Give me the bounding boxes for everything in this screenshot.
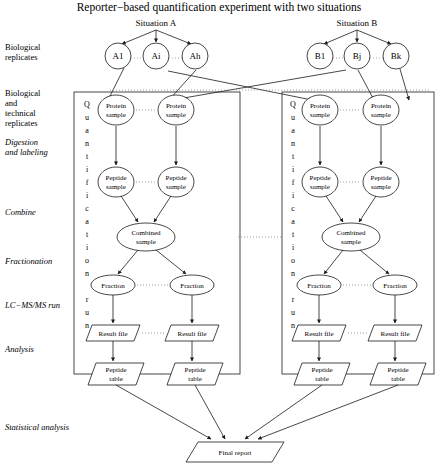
replicate-node-bk[interactable]: Bk xyxy=(383,43,409,69)
node-text-line: Peptide xyxy=(106,366,127,374)
arrow-combined-to-fraction-b1 xyxy=(324,250,343,274)
node-text-line: sample xyxy=(310,183,330,191)
node-text-line: Peptide xyxy=(371,174,392,182)
node-text-line: sample xyxy=(166,111,186,119)
vert-letter: a xyxy=(291,217,295,226)
replicate-node-a1[interactable]: A1 xyxy=(105,43,131,69)
situation-b-fanout xyxy=(324,30,391,44)
node-text-line: Fraction xyxy=(101,282,125,290)
vert-letter: n xyxy=(291,269,295,278)
vert-letter: r xyxy=(86,295,89,304)
stage-label-line: Biological xyxy=(5,42,41,52)
replicate-label: Ah xyxy=(190,51,201,61)
node-text-line: sample xyxy=(106,111,126,119)
arrow-table-a1-to-final xyxy=(116,385,211,439)
workflow-diagram: Reporter−based quantification experiment… xyxy=(0,0,439,466)
arrow-bk-to-protein-sample xyxy=(400,69,409,100)
vert-letter: t xyxy=(86,230,89,239)
result-file-node-a1[interactable]: Result file xyxy=(86,325,140,341)
result-file-node-b1[interactable]: Result file xyxy=(292,325,346,341)
peptide-table-node-b2[interactable]: Peptide table xyxy=(370,363,426,385)
result-file-node-a2[interactable]: Result file xyxy=(165,325,219,341)
node-text-line: Peptide xyxy=(166,174,187,182)
stage-label-biological-replicates: Biological replicates xyxy=(5,42,41,62)
node-text-line: Combined xyxy=(131,229,161,237)
stage-label-digestion-and-labeling: Digestion and labeling xyxy=(4,137,48,157)
stage-label-line: replicates xyxy=(5,52,38,62)
node-text-line: Result file xyxy=(381,330,410,338)
vert-letter: o xyxy=(85,256,89,265)
node-text-line: Fraction xyxy=(307,282,331,290)
peptide-table-node-a1[interactable]: Peptide table xyxy=(88,363,144,385)
replicate-label: B1 xyxy=(315,51,326,61)
protein-sample-node-a2[interactable]: Protein sample xyxy=(158,95,194,125)
situation-a-heading: Situation A xyxy=(136,18,177,28)
vert-letter: n xyxy=(85,321,89,330)
node-text-line: sample xyxy=(106,183,126,191)
node-text-line: Peptide xyxy=(388,366,409,374)
combined-sample-node-b[interactable]: Combined sample xyxy=(322,223,380,251)
arrow-combined-to-fraction-b2 xyxy=(360,250,389,274)
peptide-table-node-b1[interactable]: Peptide table xyxy=(294,363,350,385)
combined-sample-node-a[interactable]: Combined sample xyxy=(117,223,175,251)
vert-letter: i xyxy=(86,191,89,200)
vert-letter: u xyxy=(291,308,295,317)
vert-letter: o xyxy=(291,256,295,265)
arrow-combined-to-fraction-a1 xyxy=(118,250,138,274)
node-text-line: Result file xyxy=(178,330,207,338)
vert-letter: n xyxy=(291,139,295,148)
stage-label-biological-and-technical-replicates: Biological and technical replicates xyxy=(5,88,41,128)
node-text-line: sample xyxy=(136,238,156,246)
peptide-table-node-a2[interactable]: Peptide table xyxy=(167,363,223,385)
vert-letter: a xyxy=(291,126,295,135)
arrow-peptide-to-combined-b1 xyxy=(326,196,343,222)
stage-label-line: and xyxy=(5,98,18,108)
fraction-node-a2[interactable]: Fraction xyxy=(170,275,214,295)
replicate-label: Bk xyxy=(391,51,402,61)
protein-sample-node-b1[interactable]: Protein sample xyxy=(302,95,338,125)
vert-letter: f xyxy=(86,178,89,187)
node-text-line: sample xyxy=(341,238,361,246)
situation-a-fanout xyxy=(122,30,191,44)
protein-sample-node-b2[interactable]: Protein sample xyxy=(363,95,399,125)
fraction-node-a1[interactable]: Fraction xyxy=(91,275,135,295)
final-report-node[interactable]: Final report xyxy=(186,442,284,462)
vert-letter: t xyxy=(292,230,295,239)
result-file-node-b2[interactable]: Result file xyxy=(368,325,422,341)
replicate-node-b1[interactable]: B1 xyxy=(307,43,333,69)
node-text-line: table xyxy=(109,375,123,383)
vert-letter: r xyxy=(292,295,295,304)
vert-letter: i xyxy=(292,165,295,174)
node-text-line: Protein xyxy=(166,102,187,110)
peptide-sample-node-b1[interactable]: Peptide sample xyxy=(302,167,338,197)
node-text-line: Protein xyxy=(371,102,392,110)
arrow-table-b2-to-final xyxy=(258,385,398,439)
replicate-node-bj[interactable]: Bj xyxy=(344,43,370,69)
node-text-line: table xyxy=(188,375,202,383)
node-text-line: sample xyxy=(371,111,391,119)
replicate-node-ah[interactable]: Ah xyxy=(182,43,208,69)
replicate-node-ai[interactable]: Ai xyxy=(143,43,169,69)
peptide-sample-node-b2[interactable]: Peptide sample xyxy=(363,167,399,197)
stage-label-lc-ms-ms-run: LC−MS/MS run xyxy=(4,300,60,310)
node-text-line: table xyxy=(391,375,405,383)
vert-letter: n xyxy=(291,321,295,330)
final-report-label: Final report xyxy=(219,449,252,457)
vert-letter: n xyxy=(85,269,89,278)
node-text-line: Fraction xyxy=(383,282,407,290)
peptide-sample-node-a1[interactable]: Peptide sample xyxy=(98,167,134,197)
node-text-line: Combined xyxy=(336,229,366,237)
replicate-label: Bj xyxy=(353,51,362,61)
stage-label-line: Digestion xyxy=(4,137,38,147)
vert-letter: n xyxy=(85,139,89,148)
vert-letter: f xyxy=(292,178,295,187)
arrow-table-b1-to-final xyxy=(245,385,322,439)
replicate-label: Ai xyxy=(152,51,161,61)
arrow-bj-to-protein-sample-right xyxy=(358,70,374,100)
peptide-sample-node-a2[interactable]: Peptide sample xyxy=(158,167,194,197)
fraction-node-b2[interactable]: Fraction xyxy=(373,275,417,295)
protein-sample-node-a1[interactable]: Protein sample xyxy=(98,95,134,125)
arrow-peptide-to-combined-a2 xyxy=(154,196,171,222)
stage-label-line: technical xyxy=(5,108,36,118)
fraction-node-b1[interactable]: Fraction xyxy=(297,275,341,295)
